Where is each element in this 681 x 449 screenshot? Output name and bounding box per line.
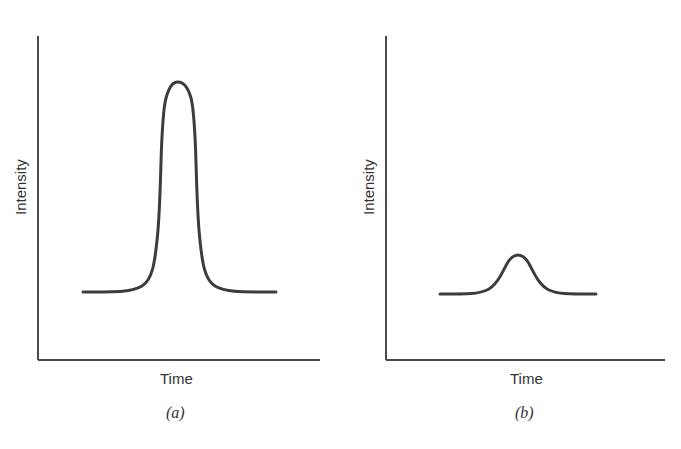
panel-a-axes xyxy=(38,36,320,360)
panel-b-caption: (b) xyxy=(515,404,534,422)
panel-b-curve xyxy=(440,255,596,294)
panel-b-x-axis-label: Time xyxy=(510,370,543,387)
panel-a-caption: (a) xyxy=(166,404,185,422)
panel-a-curve xyxy=(83,82,276,292)
panel-a-x-axis-label: Time xyxy=(160,370,193,387)
panel-b-axes xyxy=(386,36,665,360)
panel-b-y-axis-label: Intensity xyxy=(360,159,377,215)
panel-a-y-axis-label: Intensity xyxy=(12,159,29,215)
figure-canvas xyxy=(0,0,681,449)
